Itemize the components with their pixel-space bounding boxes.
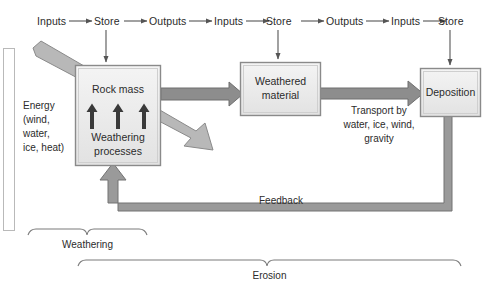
brace-label-weathering: Weathering	[28, 239, 147, 251]
box-label-rock-mass: Rock mass	[76, 83, 160, 96]
box-label-processes: processes	[76, 145, 160, 158]
flow-step-store-1: Store	[94, 15, 120, 27]
store-drop-arrows	[106, 30, 450, 65]
transport-label-line3: gravity	[330, 132, 428, 146]
flow-step-inputs-2: Inputs	[214, 15, 243, 27]
transport-label-line2: water, ice, wind,	[330, 118, 428, 132]
weathering-brace-shape	[28, 229, 147, 235]
feedback-label: Feedback	[259, 194, 303, 208]
box-label-weathering: Weathering	[76, 131, 160, 144]
transport-label-line1: Transport by	[330, 104, 428, 118]
flow-step-inputs-3: Inputs	[391, 15, 420, 27]
energy-label-line4: ice, heat)	[23, 141, 64, 155]
box-label-material: material	[241, 89, 320, 102]
box-label-deposition: Deposition	[421, 86, 480, 99]
brace-label-erosion: Erosion	[78, 270, 461, 282]
weathered-to-deposition-arrow	[320, 81, 423, 106]
left-page-panel	[4, 49, 15, 231]
flow-step-store-2: Store	[266, 15, 292, 27]
flow-step-inputs-1: Inputs	[37, 15, 66, 27]
diagram-canvas: Inputs Store Outputs Inputs Store Output…	[0, 0, 488, 285]
energy-label-line1: Energy	[23, 99, 55, 113]
energy-label-line3: water,	[23, 127, 50, 141]
flow-step-store-3: Store	[438, 15, 464, 27]
energy-label-line2: (wind,	[23, 113, 50, 127]
rockmass-to-weathered-arrow	[161, 82, 243, 106]
box-label-weathered: Weathered	[241, 75, 320, 88]
flow-step-outputs-1: Outputs	[149, 15, 186, 27]
flow-step-outputs-2: Outputs	[326, 15, 363, 27]
erosion-brace-shape	[78, 260, 461, 266]
